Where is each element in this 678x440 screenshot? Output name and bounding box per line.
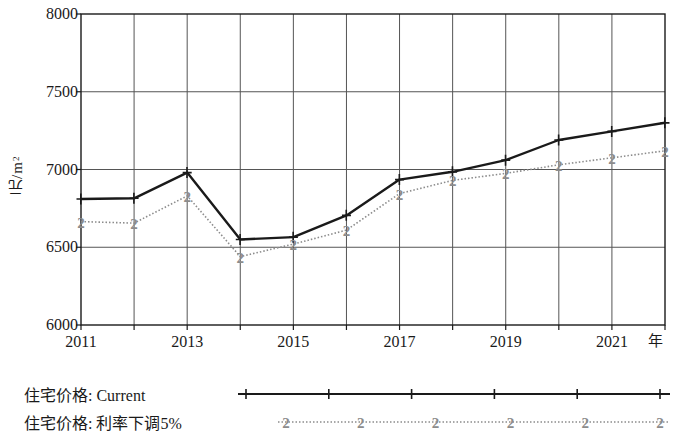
data-point-marker xyxy=(607,126,616,137)
legend-marker xyxy=(325,389,333,399)
data-point-marker: 2 xyxy=(77,215,85,231)
plot-area: 222222222222 xyxy=(0,0,678,440)
legend-sample-current xyxy=(234,382,674,406)
legend-marker: 2 xyxy=(656,415,664,431)
legend-marker: 2 xyxy=(357,415,365,431)
data-point-marker xyxy=(395,174,404,185)
data-point-marker: 2 xyxy=(343,223,351,239)
legend-marker: 2 xyxy=(581,415,589,431)
data-point-marker xyxy=(77,194,86,205)
data-point-marker: 2 xyxy=(502,166,510,182)
data-point-marker xyxy=(554,134,563,145)
data-point-marker: 2 xyxy=(608,151,616,167)
legend-item-rate-cut: 住宅价格: 利率下调5% 222222 xyxy=(24,408,674,436)
legend-marker: 2 xyxy=(507,415,515,431)
legend-marker xyxy=(656,389,664,399)
legend-marker xyxy=(573,389,581,399)
data-point-marker xyxy=(661,117,670,128)
data-point-marker: 2 xyxy=(661,144,669,160)
series-1 xyxy=(77,117,670,245)
legend-marker: 2 xyxy=(432,415,440,431)
legend-marker: 2 xyxy=(282,415,290,431)
legend-sample-rate-cut: 222222 xyxy=(274,410,674,434)
legend-marker xyxy=(490,389,498,399)
data-point-marker: 2 xyxy=(130,216,138,232)
data-point-marker: 2 xyxy=(290,237,298,253)
data-point-marker xyxy=(501,155,510,166)
series-line xyxy=(81,123,665,240)
chart-container: 元/m2 80007500700065006000 20112013201520… xyxy=(0,0,678,440)
data-point-marker: 2 xyxy=(555,158,563,174)
series-line xyxy=(81,151,665,257)
legend-item-current: 住宅价格: Current xyxy=(24,380,674,408)
data-point-marker: 2 xyxy=(449,173,457,189)
legend-label-current: 住宅价格: Current xyxy=(24,382,224,406)
data-point-marker: 2 xyxy=(237,250,245,266)
chart-legend: 住宅价格: Current 住宅价格: 利率下调5% 222222 xyxy=(24,380,674,436)
data-point-marker xyxy=(342,210,351,221)
data-point-marker: 2 xyxy=(183,189,191,205)
data-point-marker xyxy=(130,193,139,204)
legend-marker xyxy=(408,389,416,399)
legend-marker xyxy=(242,389,250,399)
legend-label-rate-cut: 住宅价格: 利率下调5% xyxy=(24,410,264,434)
data-point-marker: 2 xyxy=(396,187,404,203)
